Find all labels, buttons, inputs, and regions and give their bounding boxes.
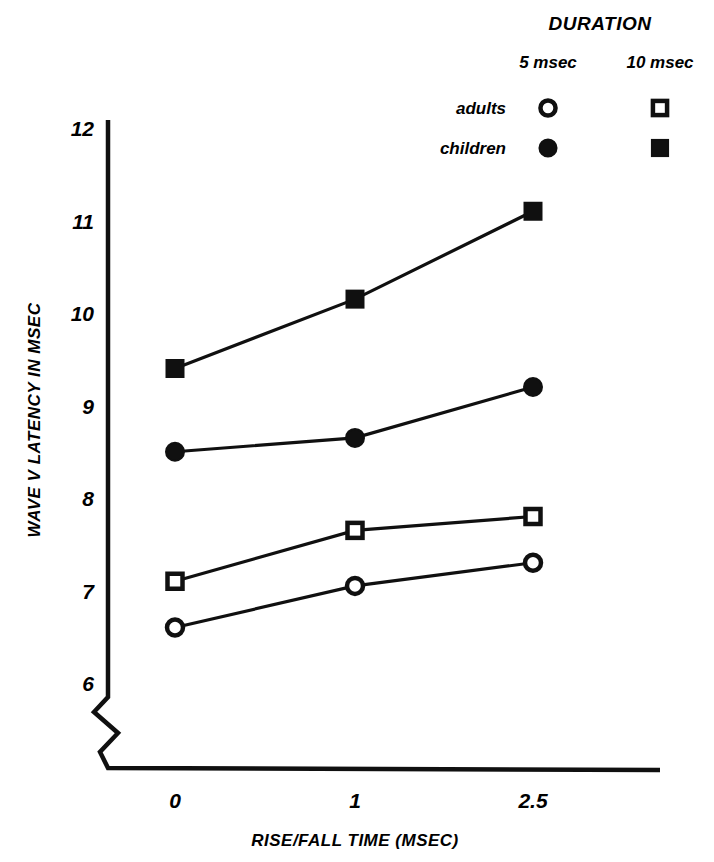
legend-title: DURATION bbox=[549, 13, 653, 34]
data-point-filled-square bbox=[347, 291, 364, 308]
legend-marker bbox=[540, 100, 555, 115]
x-tick-label: 2.5 bbox=[517, 789, 548, 812]
data-point-filled-circle bbox=[166, 443, 184, 461]
y-tick-label: 8 bbox=[82, 487, 94, 510]
series-filled-circle bbox=[166, 378, 542, 461]
legend-row-label: children bbox=[440, 139, 506, 158]
data-point-open-square bbox=[168, 574, 183, 589]
data-point-open-circle bbox=[525, 555, 541, 571]
series-filled-square bbox=[167, 203, 542, 377]
x-tick-label: 1 bbox=[349, 789, 361, 812]
data-point-open-square bbox=[348, 523, 363, 538]
wave-v-latency-line-chart: 6789101112 012.5 WAVE V LATENCY IN MSEC … bbox=[0, 0, 714, 862]
data-point-open-circle bbox=[167, 620, 183, 636]
legend: DURATION5 msec10 msecadultschildren bbox=[440, 13, 694, 158]
y-tick-label: 12 bbox=[71, 117, 95, 140]
y-axis-tick-labels: 6789101112 bbox=[71, 117, 96, 695]
data-point-open-circle bbox=[347, 578, 363, 594]
x-axis-tick-labels: 012.5 bbox=[169, 789, 548, 812]
data-point-filled-circle bbox=[346, 429, 364, 447]
y-tick-label: 7 bbox=[82, 580, 95, 603]
chart-figure: 6789101112 012.5 WAVE V LATENCY IN MSEC … bbox=[0, 0, 714, 862]
data-point-open-square bbox=[526, 509, 541, 524]
data-point-filled-square bbox=[652, 140, 668, 156]
y-tick-label: 9 bbox=[82, 395, 94, 418]
y-axis-title: WAVE V LATENCY IN MSEC bbox=[25, 302, 44, 537]
data-point-filled-square bbox=[167, 360, 184, 377]
legend-marker bbox=[652, 140, 668, 156]
legend-marker bbox=[539, 139, 556, 156]
data-series-layer bbox=[166, 203, 542, 636]
legend-marker bbox=[653, 101, 667, 115]
legend-row-label: adults bbox=[456, 99, 506, 118]
y-tick-label: 10 bbox=[71, 302, 95, 325]
data-point-filled-circle bbox=[524, 378, 542, 396]
x-tick-label: 0 bbox=[169, 789, 181, 812]
y-tick-label: 6 bbox=[82, 672, 94, 695]
data-point-filled-square bbox=[525, 203, 542, 220]
data-point-filled-circle bbox=[539, 139, 556, 156]
data-point-open-square bbox=[653, 101, 667, 115]
data-point-open-circle bbox=[540, 100, 555, 115]
y-tick-label: 11 bbox=[72, 210, 94, 233]
legend-column-header: 10 msec bbox=[626, 53, 694, 72]
x-axis-title: RISE/FALL TIME (MSEC) bbox=[251, 831, 459, 850]
legend-column-header: 5 msec bbox=[519, 53, 577, 72]
